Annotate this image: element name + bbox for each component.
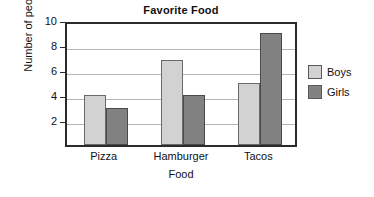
chart-title: Favorite Food xyxy=(65,3,297,17)
legend-swatch-girls-icon xyxy=(308,85,322,99)
legend-label-girls: Girls xyxy=(327,86,350,98)
y-tick-label: 10 xyxy=(35,16,57,27)
y-tick-label: 6 xyxy=(35,66,57,77)
x-tick-label-tacos: Tacos xyxy=(220,150,297,163)
y-tick-label: 4 xyxy=(35,91,57,102)
x-tick-label-hamburger: Hamburger xyxy=(142,150,219,163)
plot-area xyxy=(65,22,297,147)
legend-item-girls[interactable]: Girls xyxy=(308,82,351,102)
chart-legend: BoysGirls xyxy=(308,62,351,102)
legend-swatch-boys-icon xyxy=(308,65,322,79)
bar-tacos-boys xyxy=(238,83,260,146)
legend-label-boys: Boys xyxy=(327,66,351,78)
legend-item-boys[interactable]: Boys xyxy=(308,62,351,82)
bar-tacos-girls xyxy=(260,33,282,146)
x-axis-title: Food xyxy=(65,168,297,181)
y-tick-label: 2 xyxy=(35,116,57,127)
y-tick-label: 8 xyxy=(35,41,57,52)
bar-pizza-girls xyxy=(106,108,128,146)
x-tick-label-pizza: Pizza xyxy=(65,150,142,163)
bar-hamburger-boys xyxy=(161,60,183,145)
bar-pizza-boys xyxy=(84,95,106,145)
y-axis-title: Number of people xyxy=(22,0,34,92)
bar-hamburger-girls xyxy=(183,95,205,145)
plot-inner xyxy=(67,24,295,145)
bar-chart: Favorite Food Number of people 246810 Pi… xyxy=(0,0,374,197)
